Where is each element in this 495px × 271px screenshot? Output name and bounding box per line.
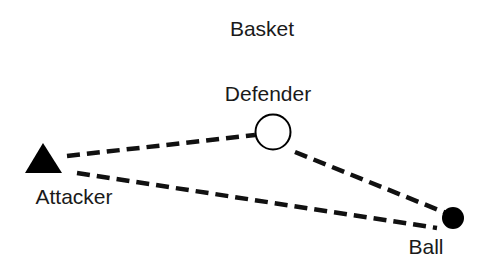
defender-circle-icon — [256, 115, 291, 150]
edge-attacker-defender — [67, 135, 255, 156]
basket-label: Basket — [230, 17, 294, 40]
edge-defender-ball — [295, 152, 446, 213]
basketball-positioning-diagram: Basket Defender Attacker Ball — [0, 0, 495, 271]
attacker-label: Attacker — [35, 185, 112, 208]
ball-icon — [442, 207, 464, 229]
edge-attacker-ball — [77, 173, 437, 228]
ball-label: Ball — [408, 235, 443, 258]
defender-label: Defender — [225, 82, 311, 105]
attacker-triangle-icon — [25, 143, 62, 173]
